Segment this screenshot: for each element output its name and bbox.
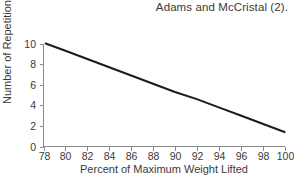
x-tick-label: 92 <box>192 150 204 162</box>
y-tick-labels: 0246810 <box>24 38 36 153</box>
x-tick-label: 96 <box>236 150 248 162</box>
x-tick-label: 94 <box>214 150 226 162</box>
x-tick-label: 78 <box>39 150 51 162</box>
x-tick-label: 100 <box>277 150 294 162</box>
plot-area: 0246810 7880828486889092949698100 <box>0 0 294 181</box>
x-tick-label: 82 <box>82 150 94 162</box>
y-axis-group: 0246810 <box>24 38 43 153</box>
data-line-repetitions <box>46 44 285 133</box>
chart-figure: Adams and McCristal (2). Number of Repet… <box>0 0 294 181</box>
data-series-group <box>46 44 285 133</box>
x-tick-label: 80 <box>60 150 72 162</box>
y-tick-label: 6 <box>30 79 36 91</box>
y-tick-marks <box>40 45 44 148</box>
x-tick-label: 86 <box>126 150 138 162</box>
y-tick-label: 2 <box>30 120 36 132</box>
y-tick-label: 8 <box>30 58 36 70</box>
y-tick-label: 0 <box>30 141 36 153</box>
x-tick-label: 90 <box>170 150 182 162</box>
x-tick-label: 88 <box>148 150 160 162</box>
y-tick-label: 4 <box>30 99 36 111</box>
x-tick-label: 84 <box>104 150 116 162</box>
x-tick-labels: 7880828486889092949698100 <box>39 150 294 162</box>
x-tick-label: 98 <box>258 150 270 162</box>
y-tick-label: 10 <box>24 38 36 50</box>
x-axis-group: 7880828486889092949698100 <box>39 147 294 163</box>
x-tick-marks <box>45 147 286 151</box>
